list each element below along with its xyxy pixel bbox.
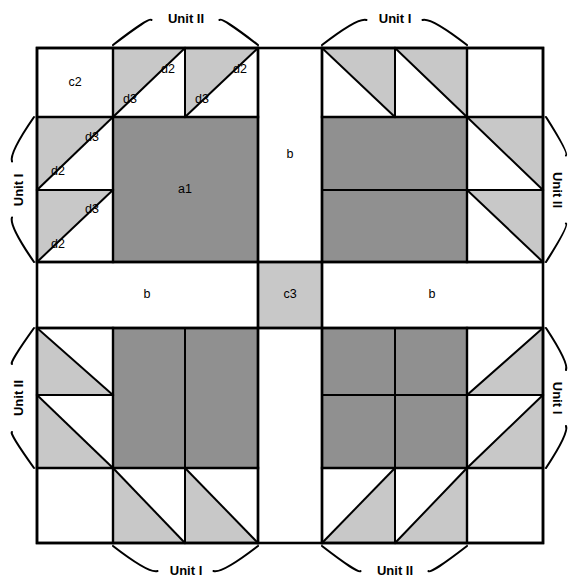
bracket-left-lower-arc-start bbox=[12, 328, 34, 364]
patch-c2-br bbox=[467, 468, 543, 543]
label-b-right: b bbox=[429, 287, 436, 301]
label-b-top: b bbox=[287, 147, 294, 161]
label-c2-top-left: c2 bbox=[68, 75, 81, 89]
bracket-left-upper-arc-end bbox=[12, 218, 34, 263]
bracket-right-upper-arc-start bbox=[546, 117, 566, 156]
patch-c2-tr bbox=[467, 48, 543, 117]
label-d3-left-2: d3 bbox=[85, 202, 99, 216]
label-b-left: b bbox=[144, 287, 151, 301]
patch-c2-bl bbox=[37, 468, 113, 543]
bracket-top-left-arc-end bbox=[220, 20, 259, 45]
bracket-bottom-left-arc-start bbox=[113, 546, 158, 571]
label-d2-top-2: d2 bbox=[233, 62, 247, 76]
bracket-right-upper-label: Unit II bbox=[550, 172, 565, 208]
bracket-top-right-label: Unit I bbox=[379, 11, 412, 26]
label-d2-left-1: d2 bbox=[51, 164, 65, 178]
bracket-right-upper-arc-end bbox=[546, 224, 566, 263]
bracket-right-lower-arc-end bbox=[546, 426, 566, 468]
diagram-canvas: Unit IIUnit IUnit IUnit IIUnit IIUnit IU… bbox=[0, 0, 576, 588]
bracket-bottom-left-arc-end bbox=[214, 546, 259, 571]
bracket-left-upper-arc-start bbox=[12, 117, 34, 162]
label-d3-top-1: d3 bbox=[123, 92, 137, 106]
label-d3-left-1: d3 bbox=[85, 130, 99, 144]
bracket-top-right-arc-end bbox=[423, 20, 468, 45]
bracket-bottom-right-label: Unit II bbox=[377, 563, 413, 578]
quilt-block-diagram: Unit IIUnit IUnit IUnit IIUnit IIUnit IU… bbox=[0, 0, 576, 588]
bracket-left-lower-arc-end bbox=[12, 432, 34, 468]
label-d2-left-2: d2 bbox=[51, 237, 65, 251]
label-c3-center: c3 bbox=[283, 287, 296, 301]
label-d2-top-1: d2 bbox=[161, 62, 175, 76]
bracket-left-lower-label: Unit II bbox=[11, 380, 26, 416]
bracket-bottom-right-arc-start bbox=[322, 546, 361, 571]
bracket-right-lower-label: Unit I bbox=[550, 382, 565, 415]
bracket-left-upper-label: Unit I bbox=[11, 174, 26, 207]
bracket-bottom-right-arc-end bbox=[429, 546, 468, 571]
bracket-top-left-label: Unit II bbox=[168, 11, 204, 26]
label-a1-top-left: a1 bbox=[178, 182, 192, 196]
label-d3-top-2: d3 bbox=[195, 92, 209, 106]
bracket-top-right-arc-start bbox=[322, 20, 367, 45]
bracket-top-left-arc-start bbox=[113, 20, 152, 45]
bracket-right-lower-arc-start bbox=[546, 328, 566, 370]
bracket-bottom-left-label: Unit I bbox=[170, 563, 203, 578]
